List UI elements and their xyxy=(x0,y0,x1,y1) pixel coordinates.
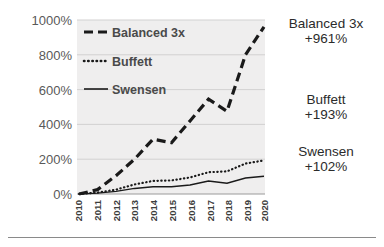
y-tick-1000: 1000% xyxy=(32,13,73,28)
x-tick-2020: 2020 xyxy=(259,200,270,221)
annotation-swensen-value: +102% xyxy=(270,159,382,174)
legend-label-swensen: Swensen xyxy=(112,83,166,97)
annotation-buffett-name: Buffett xyxy=(270,92,382,107)
x-tick-2011: 2011 xyxy=(92,199,103,220)
annotation-balanced-3x-value: +961% xyxy=(270,31,382,46)
y-axis-tick-labels: 1000% 800% 600% 400% 200% 0% xyxy=(32,13,73,202)
legend-label-buffett: Buffett xyxy=(112,55,153,69)
y-tick-0: 0% xyxy=(53,187,72,202)
x-tick-2017: 2017 xyxy=(205,200,216,221)
legend-label-balanced-3x: Balanced 3x xyxy=(112,26,185,40)
annotation-balanced-3x: Balanced 3x +961% xyxy=(270,16,382,46)
x-tick-2018: 2018 xyxy=(223,200,234,221)
footer-divider-rule xyxy=(8,237,376,238)
x-tick-2010: 2010 xyxy=(73,200,84,221)
x-tick-2014: 2014 xyxy=(148,199,159,221)
y-tick-600: 600% xyxy=(39,83,73,98)
annotation-swensen: Swensen +102% xyxy=(270,144,382,174)
annotation-swensen-name: Swensen xyxy=(270,144,382,159)
annotation-buffett-value: +193% xyxy=(270,107,382,122)
y-tick-200: 200% xyxy=(39,152,73,167)
annotation-buffett: Buffett +193% xyxy=(270,92,382,122)
x-tick-2019: 2019 xyxy=(242,200,253,221)
x-tick-2016: 2016 xyxy=(186,200,197,221)
x-tick-2013: 2013 xyxy=(129,200,140,221)
x-tick-2012: 2012 xyxy=(111,200,122,221)
y-tick-800: 800% xyxy=(39,48,73,63)
annotation-balanced-3x-name: Balanced 3x xyxy=(270,16,382,31)
x-axis-tick-labels: 2010 2011 2012 2013 2014 2015 2016 2017 … xyxy=(73,199,270,221)
chart-figure: 1000% 800% 600% 400% 200% 0% 2010 2011 2… xyxy=(0,0,384,247)
y-tick-400: 400% xyxy=(39,117,73,132)
x-tick-2015: 2015 xyxy=(167,199,178,221)
